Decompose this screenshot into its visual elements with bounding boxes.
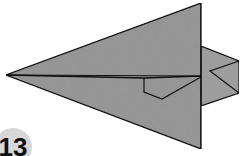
tail-box (201, 46, 239, 106)
airplane-diagram (0, 0, 244, 156)
